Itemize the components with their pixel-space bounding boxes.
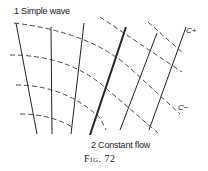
characteristic-line <box>16 23 37 134</box>
c-plus-characteristics <box>16 23 186 135</box>
characteristic-line <box>71 23 84 134</box>
region-boundary-line <box>90 27 126 135</box>
simple-wave-label: 1 Simple wave <box>14 6 70 16</box>
constant-flow-label: 2 Constant flow <box>91 140 150 150</box>
c-minus-characteristics <box>10 17 184 133</box>
c-plus-label: C+ <box>186 26 196 35</box>
c-minus-label: C− <box>178 103 188 112</box>
dashed-characteristic <box>20 114 72 127</box>
characteristic-line <box>120 33 157 130</box>
figure-caption: Fig. 72 <box>84 153 115 164</box>
dashed-characteristic <box>10 55 158 133</box>
dashed-characteristic <box>100 17 182 72</box>
characteristic-line <box>149 27 186 130</box>
dashed-characteristic <box>148 22 184 54</box>
